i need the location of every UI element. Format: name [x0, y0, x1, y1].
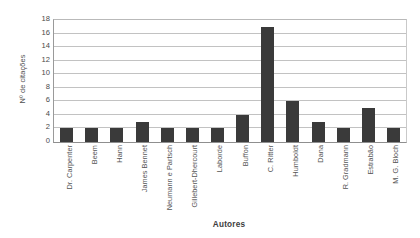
- x-axis-tick: Estrabão: [355, 143, 380, 219]
- x-axis-tick: M. G. Bloch: [380, 143, 405, 219]
- x-axis-tick: Neumann e Partsch: [154, 143, 179, 219]
- y-axis-tick-label: 4: [28, 110, 50, 118]
- x-axis-tick-label: M. G. Bloch: [392, 145, 400, 184]
- bars-layer: [54, 20, 406, 142]
- x-axis-tick: Dana: [304, 143, 329, 219]
- y-axis-tick-label: 8: [28, 83, 50, 91]
- bar: [312, 122, 325, 142]
- bar: [110, 128, 123, 142]
- y-axis-tick-label: 6: [28, 96, 50, 104]
- x-axis-tick: C. Ritter: [254, 143, 279, 219]
- bar: [60, 128, 73, 142]
- bar: [211, 128, 224, 142]
- x-axis-tick-label: C. Ritter: [267, 145, 275, 172]
- x-axis-tick-labels: Dr. CarpenterBeemHannJames BennetNeumann…: [53, 143, 405, 219]
- y-axis-tick-label: 14: [28, 42, 50, 50]
- x-axis-tick-label: Estrabão: [367, 145, 375, 175]
- x-axis-tick: Beem: [78, 143, 103, 219]
- x-axis-tick-label: Hann: [116, 145, 124, 163]
- x-axis-title: Autores: [53, 220, 405, 229]
- x-axis-tick-label: Laborde: [216, 145, 224, 172]
- plot-area: [53, 19, 407, 143]
- bar: [85, 128, 98, 142]
- x-axis-tick-label: Dr. Carpenter: [66, 145, 74, 189]
- x-axis-tick: Laborde: [204, 143, 229, 219]
- y-axis-tick-label: 12: [28, 56, 50, 64]
- x-axis-tick: James Bennet: [128, 143, 153, 219]
- y-axis-tick-labels: 024681012141618: [28, 13, 50, 146]
- y-axis-tick-label: 2: [28, 123, 50, 131]
- x-axis-tick-label: Beem: [91, 145, 99, 164]
- bar: [136, 122, 149, 142]
- x-axis-tick: Humboldt: [279, 143, 304, 219]
- bar: [337, 128, 350, 142]
- x-axis-tick: Buffon: [229, 143, 254, 219]
- bar: [236, 115, 249, 142]
- bar: [387, 128, 400, 142]
- bar: [186, 128, 199, 142]
- x-axis-tick: R. Gradmann: [330, 143, 355, 219]
- y-axis-tick-label: 18: [28, 15, 50, 23]
- x-axis-tick: Hann: [103, 143, 128, 219]
- y-axis-tick-label: 0: [28, 137, 50, 145]
- bar: [161, 128, 174, 142]
- x-axis-tick: Dr. Carpenter: [53, 143, 78, 219]
- x-axis-tick-label: James Bennet: [141, 145, 149, 192]
- x-axis-tick-label: Neumann e Partsch: [166, 145, 174, 210]
- x-axis-tick-label: Dana: [317, 145, 325, 163]
- bar: [362, 108, 375, 142]
- bar: [261, 27, 274, 142]
- bar: [286, 101, 299, 142]
- x-axis-tick-label: Buffon: [242, 145, 250, 166]
- x-axis-tick-label: Gillebert-Dhercourt: [191, 145, 199, 208]
- bar-chart-figure: Nº de citações 024681012141618 Dr. Carpe…: [0, 0, 420, 238]
- x-axis-tick-label: R. Gradmann: [342, 145, 350, 189]
- y-axis-tick-label: 10: [28, 69, 50, 77]
- x-axis-tick: Gillebert-Dhercourt: [179, 143, 204, 219]
- x-axis-tick-label: Humboldt: [292, 145, 300, 177]
- y-axis-tick-label: 16: [28, 29, 50, 37]
